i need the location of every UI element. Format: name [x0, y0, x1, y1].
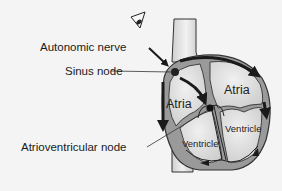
sinus-node-marker	[171, 68, 179, 76]
sinus-node-label: Sinus node	[65, 66, 123, 78]
right-ventricle-label: Ventricle	[182, 139, 218, 149]
left-atrium-label: Atria	[224, 84, 250, 97]
autonomic-nerve-label: Autonomic nerve	[40, 42, 126, 54]
heart-diagram: Autonomic nerve Sinus node Atrioventricu…	[0, 0, 282, 191]
eye-icon	[131, 12, 145, 28]
left-ventricle-label: Ventricle	[225, 124, 261, 134]
nerve-arrow-icon	[149, 48, 166, 64]
av-node-label: Atrioventricular node	[21, 142, 126, 154]
right-atrium-label: Atria	[166, 98, 192, 111]
